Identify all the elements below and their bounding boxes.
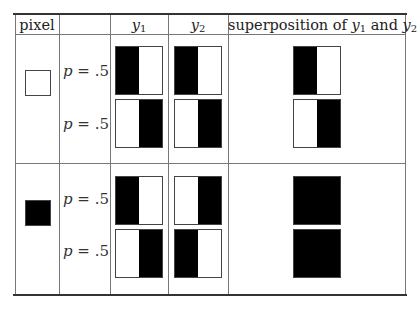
probability-label: p = .5 (61, 115, 109, 133)
share-y1-box (115, 99, 163, 148)
black-pixel-icon (25, 200, 51, 226)
header-superposition: superposition of y1 and y2 (228, 16, 405, 34)
cut-off-caption (100, 0, 320, 4)
probability-label: p = .5 (61, 242, 109, 260)
grid-line (15, 15, 16, 294)
header-y2: y2 (168, 16, 228, 34)
probability-label: p = .5 (61, 62, 109, 80)
superposition-box (293, 46, 341, 95)
superposition-box (293, 229, 341, 278)
share-y2-box (174, 99, 222, 148)
share-y2-box (174, 229, 222, 278)
header-divider (15, 34, 406, 35)
superposition-box (293, 176, 341, 225)
top-rule (13, 13, 407, 15)
share-y1-box (115, 176, 163, 225)
probability-label: p = .5 (61, 190, 109, 208)
grid-line (228, 15, 229, 294)
grid-line (405, 15, 406, 294)
share-y2-box (174, 176, 222, 225)
bottom-rule (13, 294, 407, 296)
share-y2-box (174, 46, 222, 95)
superposition-box (293, 99, 341, 148)
row-divider (15, 163, 406, 164)
header-y1: y1 (110, 16, 168, 34)
grid-line (110, 15, 111, 294)
grid-line (59, 15, 60, 294)
white-pixel-icon (25, 70, 51, 96)
grid-line (168, 15, 169, 294)
header-pixel: pixel (15, 16, 59, 34)
share-y1-box (115, 46, 163, 95)
share-y1-box (115, 229, 163, 278)
